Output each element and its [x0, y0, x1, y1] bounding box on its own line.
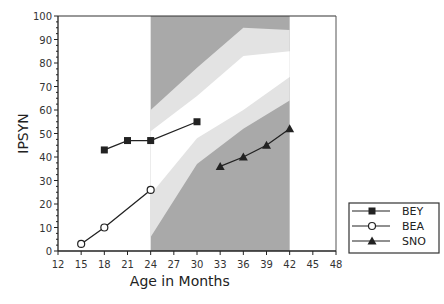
square-marker: [147, 137, 154, 144]
x-tick-label: 18: [98, 259, 111, 270]
square-marker: [101, 146, 108, 153]
x-tick-label: 42: [283, 259, 296, 270]
y-tick-label: 100: [33, 11, 52, 22]
x-axis-label: Age in Months: [130, 273, 230, 289]
x-tick-label: 36: [237, 259, 250, 270]
legend-label: BEA: [402, 220, 424, 233]
square-marker: [194, 118, 201, 125]
y-tick-label: 80: [39, 58, 52, 69]
x-tick-label: 48: [330, 259, 343, 270]
x-tick-label: 33: [214, 259, 227, 270]
circle-marker: [101, 224, 108, 231]
x-tick-label: 24: [144, 259, 157, 270]
x-tick-label: 15: [75, 259, 88, 270]
circle-marker: [78, 240, 85, 247]
series-bea: [78, 186, 155, 247]
circle-marker: [369, 223, 376, 230]
x-tick-label: 39: [260, 259, 273, 270]
legend-label: SNO: [402, 235, 426, 248]
shaded-regions: [151, 16, 290, 251]
y-tick-label: 30: [39, 176, 52, 187]
y-tick-label: 50: [39, 129, 52, 140]
y-tick-label: 70: [39, 82, 52, 93]
x-tick-label: 21: [121, 259, 134, 270]
x-tick-label: 30: [191, 259, 204, 270]
y-tick-label: 20: [39, 199, 52, 210]
x-tick-label: 27: [167, 259, 180, 270]
y-tick-label: 60: [39, 105, 52, 116]
legend: BEYBEASNO: [349, 203, 439, 253]
y-tick-label: 40: [39, 152, 52, 163]
chart: 0102030405060708090100121518212427303336…: [0, 0, 444, 304]
y-tick-label: 10: [39, 223, 52, 234]
circle-marker: [147, 186, 154, 193]
y-axis-label: IPSYN: [15, 113, 31, 153]
y-tick-label: 0: [46, 246, 52, 257]
square-marker: [369, 208, 376, 215]
square-marker: [124, 137, 131, 144]
x-tick-label: 45: [306, 259, 319, 270]
legend-label: BEY: [402, 205, 423, 218]
x-tick-label: 12: [52, 259, 65, 270]
y-tick-label: 90: [39, 35, 52, 46]
